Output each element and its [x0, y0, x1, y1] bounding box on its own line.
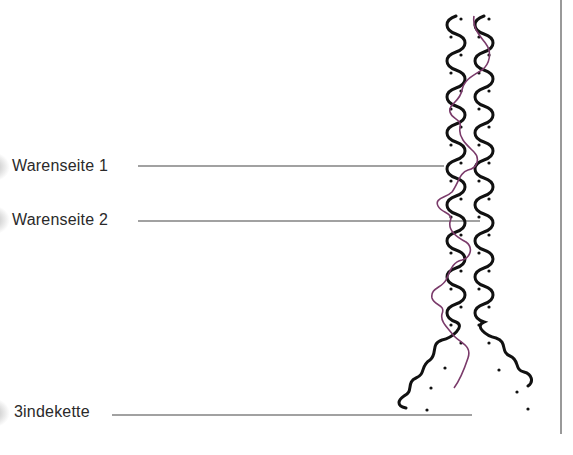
- yarn-right: [475, 16, 531, 386]
- stitch-dots: [425, 17, 529, 411]
- weave-diagram: [0, 0, 573, 455]
- yarn-left: [399, 16, 465, 408]
